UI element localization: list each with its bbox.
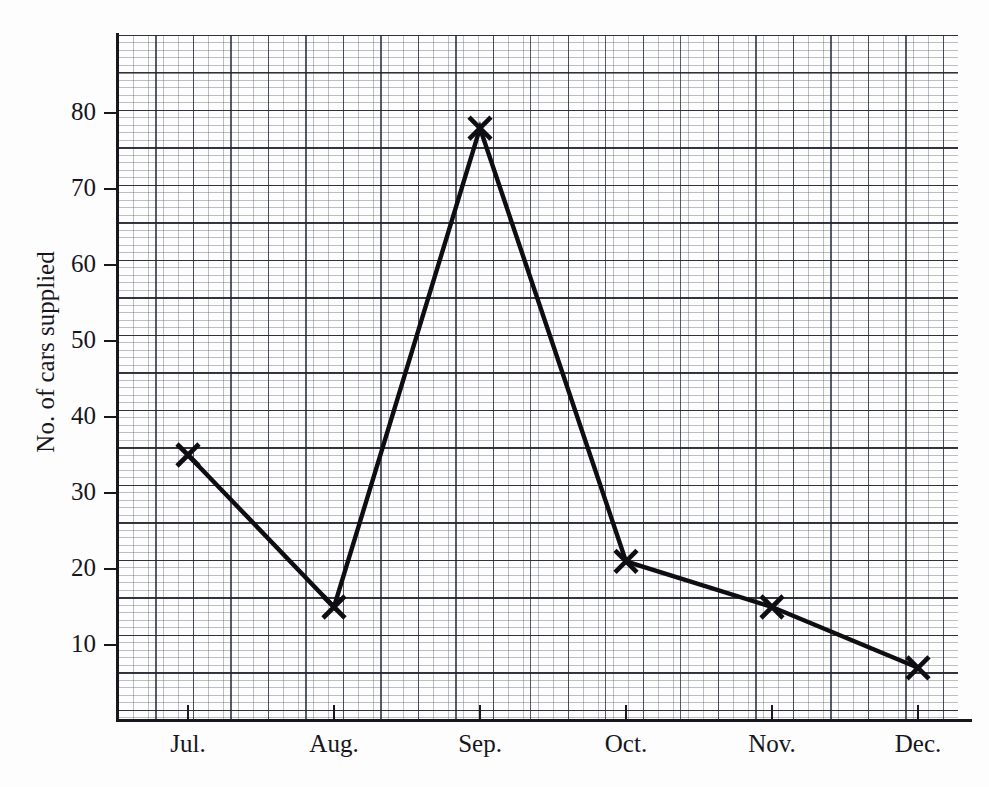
y-tick-mark xyxy=(104,188,119,190)
x-tick-mark xyxy=(333,705,335,720)
y-tick-mark xyxy=(104,492,119,494)
x-tick-mark xyxy=(625,705,627,720)
x-tick-label: Oct. xyxy=(571,731,681,756)
grid-right-margin xyxy=(958,35,989,720)
y-axis-title: No. of cars supplied xyxy=(32,202,60,502)
x-tick-label: Nov. xyxy=(717,731,827,756)
x-tick-mark xyxy=(479,705,481,720)
y-tick-mark xyxy=(104,644,119,646)
x-tick-label: Dec. xyxy=(863,731,973,756)
x-tick-label: Jul. xyxy=(133,731,243,756)
y-axis xyxy=(116,33,119,722)
y-tick-mark xyxy=(104,416,119,418)
x-axis xyxy=(116,719,972,722)
y-tick-label: 80 xyxy=(48,99,96,124)
y-tick-mark xyxy=(104,112,119,114)
x-tick-label: Sep. xyxy=(425,731,535,756)
y-tick-mark xyxy=(104,568,119,570)
y-tick-label: 70 xyxy=(48,175,96,200)
y-tick-mark xyxy=(104,340,119,342)
x-tick-mark xyxy=(187,705,189,720)
grid-decade-lines xyxy=(118,35,958,720)
x-tick-label: Aug. xyxy=(279,731,389,756)
y-tick-label: 10 xyxy=(48,631,96,656)
x-tick-mark xyxy=(917,705,919,720)
y-tick-label: 20 xyxy=(48,555,96,580)
plot-area xyxy=(118,35,958,720)
y-tick-mark xyxy=(104,264,119,266)
x-tick-mark xyxy=(771,705,773,720)
chart-page: 8070605040302010 Jul.Aug.Sep.Oct.Nov.Dec… xyxy=(0,0,989,787)
